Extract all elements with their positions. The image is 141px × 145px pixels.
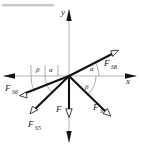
x-axis-left-arrow-icon <box>3 73 15 79</box>
y-axis-top-arrow-icon <box>66 9 71 21</box>
f-label: F <box>55 104 62 114</box>
beta-right-arc <box>88 76 96 95</box>
f-s8-arrowhead-icon <box>111 50 119 56</box>
vector-f-s6 <box>19 76 69 98</box>
f-s5-label-subscript: S5 <box>35 125 41 131</box>
diagram-canvas: y x F S8 F S7 F S6 F S5 F α β α β <box>0 0 141 145</box>
f-s5-shaft <box>35 76 70 110</box>
alpha-right-arc <box>96 62 100 76</box>
f-arrowhead-icon <box>66 109 72 118</box>
top-decoration-bar <box>2 4 54 6</box>
beta-left-label: β <box>35 66 40 74</box>
f-s6-arrowhead-icon <box>19 92 27 98</box>
f-s6-shaft <box>25 76 69 93</box>
alpha-right-label: α <box>90 65 94 73</box>
f-s6-label-subscript: S6 <box>12 89 18 95</box>
y-axis-bottom-arrow-icon <box>66 131 71 143</box>
f-s7-label: F <box>92 102 99 112</box>
vector-f-s5 <box>30 76 69 114</box>
f-s7-shaft <box>69 76 106 112</box>
x-axis-label: x <box>125 76 130 86</box>
force-diagram-figure: y x F S8 F S7 F S6 F S5 F α β α β <box>0 0 141 145</box>
vector-f <box>66 76 72 118</box>
f-s8-label: F <box>103 58 110 68</box>
f-s6-label: F <box>4 83 11 93</box>
alpha-left-label: α <box>49 66 53 74</box>
f-s5-label: F <box>27 119 34 129</box>
f-s7-label-subscript: S7 <box>100 108 107 114</box>
y-axis-label: y <box>60 7 65 17</box>
f-s8-label-subscript: S8 <box>111 64 117 70</box>
beta-right-label: β <box>84 83 89 91</box>
